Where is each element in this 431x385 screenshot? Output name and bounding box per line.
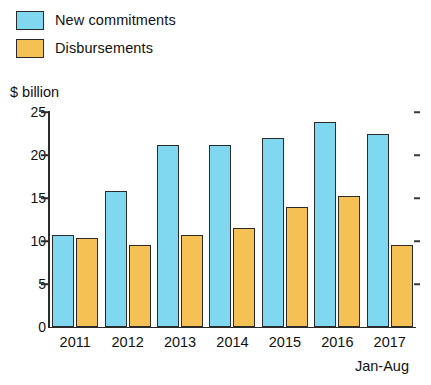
bar-chart: New commitments Disbursements $ billion … [0,0,431,385]
legend-item-new-commitments: New commitments [16,8,176,32]
legend-swatch-disbursements [16,39,44,58]
bar-new-commitments-2014 [209,145,231,327]
legend-swatch-new-commitments [16,11,44,30]
x-axis-label-2012: 2012 [101,334,153,350]
x-axis-label-2011: 2011 [49,334,101,350]
bar-group-2014 [206,112,258,327]
bar-new-commitments-2016 [314,122,336,326]
y-axis-unit-label: $ billion [10,84,59,100]
bar-disbursements-2014 [233,228,255,327]
plot-area: 25 20 15 10 5 0 [48,112,416,328]
bar-group-2011 [49,112,101,327]
x-axis-label-2014: 2014 [206,334,258,350]
y-tick-mark-20 [41,154,48,156]
bar-group-2017 [364,112,416,327]
y-tick-mark-5 [41,283,48,285]
bar-new-commitments-2017 [367,134,389,326]
bar-groups [49,112,416,327]
bar-disbursements-2016 [338,196,360,326]
bar-disbursements-2012 [129,245,151,327]
bar-new-commitments-2011 [52,235,74,327]
y-tick-mark-15 [41,197,48,199]
chart-legend: New commitments Disbursements [16,8,176,64]
y-tick-mark-25 [41,111,48,113]
bar-new-commitments-2012 [105,191,127,327]
legend-label-new-commitments: New commitments [55,12,176,28]
y-tick-mark-10 [41,240,48,242]
bar-new-commitments-2013 [157,145,179,327]
bar-disbursements-2011 [76,238,98,326]
bar-disbursements-2013 [181,235,203,327]
x-axis-label-2015: 2015 [259,334,311,350]
x-axis-footnote: Jan-Aug [355,358,409,374]
bar-group-2012 [101,112,153,327]
bar-group-2015 [259,112,311,327]
x-axis-labels: 2011201220132014201520162017 [49,334,416,350]
x-axis-line [48,327,416,329]
y-tick-label-0: 0 [8,319,46,335]
bar-group-2016 [311,112,363,327]
bar-disbursements-2017 [391,245,413,327]
x-axis-label-2017: 2017 [364,334,416,350]
legend-item-disbursements: Disbursements [16,36,176,60]
x-axis-label-2013: 2013 [154,334,206,350]
bar-new-commitments-2015 [262,138,284,327]
legend-label-disbursements: Disbursements [55,40,153,56]
x-axis-label-2016: 2016 [311,334,363,350]
bar-disbursements-2015 [286,207,308,326]
bar-group-2013 [154,112,206,327]
